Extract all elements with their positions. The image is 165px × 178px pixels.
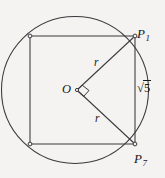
side-length-label-sqrt5: √5 xyxy=(137,82,151,95)
vertex-marker-top-left xyxy=(28,34,32,38)
point-label-P1: P1 xyxy=(137,27,149,40)
point-label-P7-subscript: 7 xyxy=(142,158,147,168)
point-label-P7: P7 xyxy=(134,152,146,165)
center-label-O: O xyxy=(62,83,71,96)
vertex-marker-bottom-left xyxy=(28,142,32,146)
point-label-P1-subscript: 1 xyxy=(145,33,150,43)
sqrt-radicand: 5 xyxy=(143,80,150,95)
radius-label-lower: r xyxy=(95,113,99,125)
radius-label-upper: r xyxy=(94,57,98,69)
geometry-figure: O P1 P7 r r √5 xyxy=(0,0,165,178)
point-label-P7-letter: P xyxy=(134,151,142,166)
point-label-P1-letter: P xyxy=(137,26,145,41)
center-point-marker xyxy=(75,88,78,91)
vertex-marker-bottom-right xyxy=(133,142,137,146)
